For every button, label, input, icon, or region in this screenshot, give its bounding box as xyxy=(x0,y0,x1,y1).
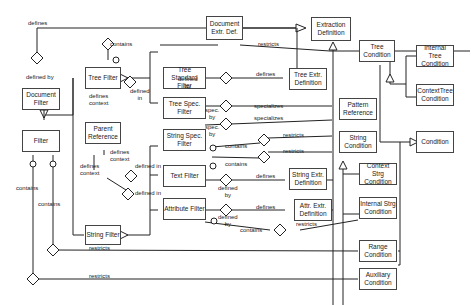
class-string-spec-filter[interactable]: String Spec. Filter xyxy=(163,129,206,151)
label-contains: contains xyxy=(240,227,262,234)
label-defines-context: defines context xyxy=(80,163,99,177)
class-attr-extr-definition[interactable]: Attr. Extr. Definition xyxy=(294,199,332,221)
class-document-filter[interactable]: Document Filter xyxy=(22,88,60,110)
label-spec-by: spec. by xyxy=(205,124,219,138)
class-string-extr-definition[interactable]: String Extr. Definition xyxy=(289,168,327,190)
class-context-strg-condition[interactable]: Context Strg Condition xyxy=(359,163,397,185)
label-defined-by: defined by xyxy=(218,214,238,228)
class-tree-spec-filter[interactable]: Tree Spec. Filter xyxy=(163,97,206,119)
label-contains: contains xyxy=(110,41,132,48)
label-defined-in: defined in xyxy=(135,163,161,170)
class-filter[interactable]: Filter xyxy=(22,130,60,152)
class-attribute-filter[interactable]: Attribute Filter xyxy=(163,198,206,220)
class-context-tree-condition[interactable]: ContextTree Condition xyxy=(416,84,454,106)
class-string-filter[interactable]: String Filter xyxy=(85,225,121,245)
label-restricts: restricts xyxy=(283,132,304,139)
label-defines: defines xyxy=(256,173,275,180)
label-restricts: restricts xyxy=(89,245,110,252)
class-range-condition[interactable]: Range Condition xyxy=(359,240,397,262)
label-defines-context: defines context xyxy=(89,93,108,107)
class-extraction-definition[interactable]: Extraction Definition xyxy=(311,17,351,41)
label-defines: defines xyxy=(28,20,47,27)
label-defines-context: defines context xyxy=(110,149,129,163)
label-restricts: restricts xyxy=(258,41,279,48)
label-specializes: specializes xyxy=(254,115,283,122)
class-text-filter[interactable]: Text Filter xyxy=(163,165,206,187)
label-defines: defines xyxy=(256,71,275,78)
class-pattern-reference[interactable]: Pattern Reference xyxy=(339,98,377,120)
class-condition[interactable]: Condition xyxy=(416,131,454,153)
label-defined-in: defined in xyxy=(130,88,150,102)
label-contains: contains xyxy=(225,161,247,168)
diagram-connectors xyxy=(0,0,471,305)
label-defines: defines xyxy=(256,204,275,211)
label-restricts: restricts xyxy=(283,148,304,155)
class-tree-condition[interactable]: Tree Condition xyxy=(359,40,395,62)
class-parent-reference[interactable]: Parent Reference xyxy=(85,122,121,144)
label-restricts: restricts xyxy=(296,221,317,228)
class-tree-filter[interactable]: Tree Filter xyxy=(85,67,121,89)
label-defined-in: defined in xyxy=(135,190,161,197)
label-contains: contains xyxy=(16,185,38,192)
class-internal-tree-condition[interactable]: Internal Tree Condition xyxy=(416,45,454,67)
label-spec-by: spec. by xyxy=(205,107,219,121)
label-defined-by: defined by xyxy=(178,76,198,90)
label-defined-by: defined by xyxy=(26,74,54,81)
label-contains: contains xyxy=(38,201,60,208)
class-document-extr-def[interactable]: Document Extr. Def. xyxy=(206,16,243,40)
label-specializes: specializes xyxy=(254,103,283,110)
label-contains: contains xyxy=(225,143,247,150)
label-restricts: restricts xyxy=(89,273,110,280)
class-internal-strg-condition[interactable]: Internal Strg Condition xyxy=(359,197,397,219)
class-auxiliary-condition[interactable]: Auxiliary Condition xyxy=(359,268,397,290)
class-string-condition[interactable]: String Condition xyxy=(339,131,377,153)
label-defined-by: defined by xyxy=(218,185,238,199)
class-tree-extr-definition[interactable]: Tree Extr. Definition xyxy=(289,68,327,90)
